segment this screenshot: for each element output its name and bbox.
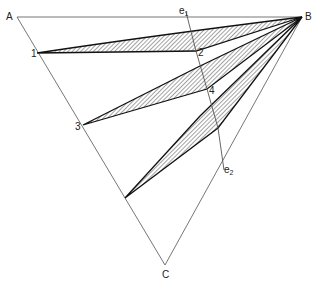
vertex-label-b: B [305,12,312,22]
ternary-diagram: A B C 1 2 3 4 e1 e2 [0,0,321,290]
vertex-label-c: C [162,270,169,280]
triangle-outline [17,17,302,265]
point-label-4: 4 [209,86,215,96]
boundary-label-e1: e1 [179,6,188,16]
point-label-1: 1 [31,49,37,59]
vertex-label-a: A [6,12,13,22]
diagram-svg [0,0,321,290]
point-label-3: 3 [75,122,81,132]
boundary-label-e2: e2 [224,165,233,175]
point-label-2: 2 [198,48,204,58]
